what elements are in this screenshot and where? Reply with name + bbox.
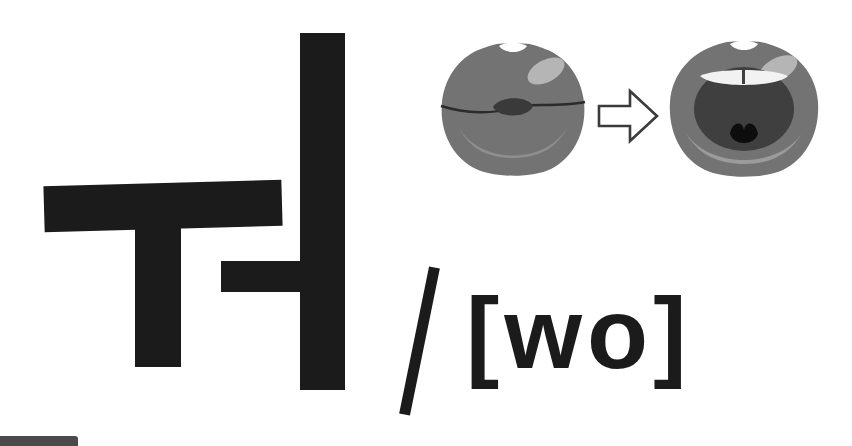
pronunciation-card: [wo] <box>0 0 852 446</box>
stroke-i-vertical <box>300 33 345 390</box>
mouth-open-illustration <box>666 38 822 184</box>
stroke-eo-spur <box>221 261 303 292</box>
corner-marker <box>0 436 78 446</box>
mouth-closed-illustration <box>437 40 589 182</box>
phonetic-transcription: [wo] <box>466 283 691 383</box>
arrow-right-icon <box>597 88 659 148</box>
stroke-u-stem <box>135 205 181 367</box>
slash-separator <box>399 266 440 415</box>
teeth-divider <box>742 68 745 84</box>
